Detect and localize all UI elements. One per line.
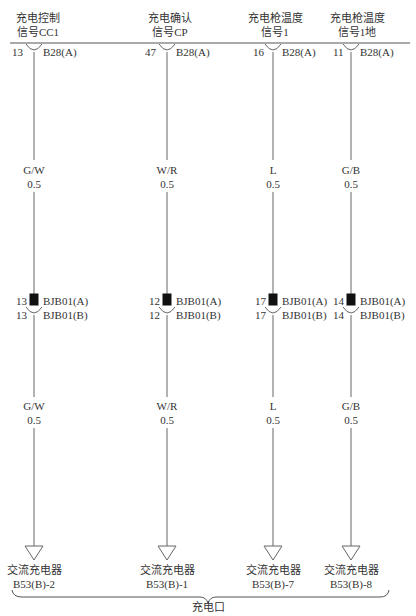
end-pin-label: B53(B)-1 xyxy=(146,578,188,591)
end-pin-label: B53(B)-8 xyxy=(330,578,372,591)
top-pin-number: 13 xyxy=(12,46,23,59)
top-connector-id: B28(A) xyxy=(176,46,210,59)
top-connector-cup-icon xyxy=(265,44,281,50)
mid-pin-b: 14 xyxy=(333,309,344,322)
top-pin-number: 16 xyxy=(253,46,264,59)
male-pin-icon xyxy=(347,294,355,305)
wire-size-upper: 0.5 xyxy=(266,178,280,191)
circuit-2-wiring xyxy=(158,44,176,560)
mid-connector-b: BJB01(B) xyxy=(282,309,327,322)
wire-color-upper: W/R xyxy=(157,164,178,177)
female-pin-cup-icon xyxy=(26,307,42,313)
circuit-1-wiring xyxy=(25,44,43,560)
circuit-3-wiring xyxy=(264,44,282,560)
wire-size-lower: 0.5 xyxy=(266,414,280,427)
top-connector-id: B28(A) xyxy=(282,46,316,59)
mid-pin-a: 14 xyxy=(333,295,344,308)
wire-size-lower: 0.5 xyxy=(160,414,174,427)
wire-size-lower: 0.5 xyxy=(344,414,358,427)
end-device-label: 交流充电器 xyxy=(324,564,379,577)
circuit-title-line2: 信号CC1 xyxy=(17,26,59,39)
ground-triangle-icon xyxy=(264,546,282,560)
end-device-label: 交流充电器 xyxy=(140,564,195,577)
male-pin-icon xyxy=(269,294,277,305)
top-connector-cup-icon xyxy=(26,44,42,50)
female-pin-cup-icon xyxy=(159,307,175,313)
wiring-diagram xyxy=(0,0,416,616)
ground-triangle-icon xyxy=(25,546,43,560)
male-pin-icon xyxy=(163,294,171,305)
mid-connector-a: BJB01(A) xyxy=(360,295,405,308)
ground-triangle-icon xyxy=(158,546,176,560)
circuit-title-line2: 信号1地 xyxy=(338,26,377,39)
top-connector-id: B28(A) xyxy=(43,46,77,59)
ground-triangle-icon xyxy=(342,546,360,560)
mid-connector-a: BJB01(A) xyxy=(282,295,327,308)
top-connector-id: B28(A) xyxy=(360,46,394,59)
mid-connector-b: BJB01(B) xyxy=(360,309,405,322)
mid-connector-b: BJB01(B) xyxy=(43,309,88,322)
end-pin-label: B53(B)-2 xyxy=(13,578,55,591)
wire-color-lower: L xyxy=(270,400,277,413)
circuit-title-line1: 充电控制 xyxy=(16,12,60,25)
circuit-title-line2: 信号1 xyxy=(261,26,289,39)
circuit-title-line1: 充电枪温度 xyxy=(248,12,303,25)
mid-connector-a: BJB01(A) xyxy=(43,295,88,308)
top-pin-number: 11 xyxy=(333,46,344,59)
wire-color-lower: W/R xyxy=(157,400,178,413)
wire-size-upper: 0.5 xyxy=(160,178,174,191)
mid-pin-a: 13 xyxy=(16,295,27,308)
circuit-title-line1: 充电确认 xyxy=(148,12,192,25)
end-device-label: 交流充电器 xyxy=(7,564,62,577)
mid-pin-b: 12 xyxy=(149,309,160,322)
top-pin-number: 47 xyxy=(145,46,156,59)
wire-color-upper: G/B xyxy=(342,164,360,177)
mid-pin-b: 13 xyxy=(16,309,27,322)
wire-color-lower: G/B xyxy=(342,400,360,413)
male-pin-icon xyxy=(30,294,38,305)
circuit-4-wiring xyxy=(342,44,360,560)
wire-size-lower: 0.5 xyxy=(27,414,41,427)
end-device-label: 交流充电器 xyxy=(246,564,301,577)
wire-color-upper: G/W xyxy=(23,164,44,177)
wire-size-upper: 0.5 xyxy=(27,178,41,191)
wire-color-upper: L xyxy=(270,164,277,177)
mid-connector-b: BJB01(B) xyxy=(176,309,221,322)
mid-pin-a: 17 xyxy=(255,295,266,308)
female-pin-cup-icon xyxy=(343,307,359,313)
end-pin-label: B53(B)-7 xyxy=(252,578,294,591)
charging-port-group-label: 充电口 xyxy=(192,601,225,614)
top-connector-cup-icon xyxy=(159,44,175,50)
circuit-title-line2: 信号CP xyxy=(152,26,187,39)
female-pin-cup-icon xyxy=(265,307,281,313)
mid-pin-b: 17 xyxy=(255,309,266,322)
wire-color-lower: G/W xyxy=(23,400,44,413)
circuit-title-line1: 充电枪温度 xyxy=(330,12,385,25)
wire-size-upper: 0.5 xyxy=(344,178,358,191)
mid-connector-a: BJB01(A) xyxy=(176,295,221,308)
top-connector-cup-icon xyxy=(343,44,359,50)
mid-pin-a: 12 xyxy=(149,295,160,308)
